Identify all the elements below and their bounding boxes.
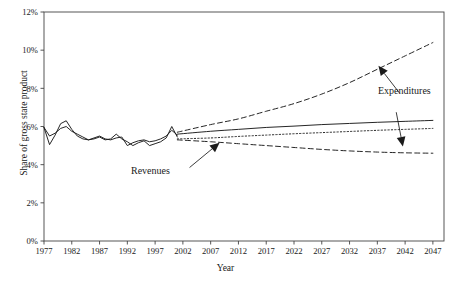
x-tick-label: 2002 — [174, 246, 191, 256]
x-tick-label: 2042 — [397, 246, 414, 256]
x-tick-label: 1982 — [63, 246, 80, 256]
x-tick-label: 1992 — [119, 246, 136, 256]
y-axis-title: Share of gross state product — [19, 53, 29, 193]
series-line — [177, 120, 433, 134]
x-tick-label: 2007 — [202, 246, 220, 256]
series-line — [44, 121, 177, 146]
x-tick-label: 2027 — [313, 246, 331, 256]
x-tick-label: 2037 — [369, 246, 387, 256]
x-tick-label: 2012 — [230, 246, 247, 256]
chart-plot-area: 0%2%4%6%8%10%12%197719821987199219972002… — [0, 0, 451, 284]
x-tick-label: 1977 — [35, 246, 53, 256]
annotation-arrow — [396, 112, 405, 146]
x-tick-label: 1997 — [147, 246, 165, 256]
x-tick-label: 2032 — [341, 246, 358, 256]
x-tick-label: 2047 — [424, 246, 442, 256]
chart-figure: 0%2%4%6%8%10%12%197719821987199219972002… — [0, 0, 451, 284]
annotation-arrow — [190, 143, 220, 168]
series-line — [177, 128, 433, 138]
x-axis-title: Year — [0, 263, 451, 273]
x-tick-label: 2022 — [285, 246, 302, 256]
y-tick-label: 0% — [27, 236, 38, 246]
y-tick-label: 12% — [22, 7, 38, 17]
x-tick-label: 1987 — [91, 246, 109, 256]
y-tick-label: 2% — [27, 198, 38, 208]
annotation-revenues: Revenues — [131, 165, 170, 176]
x-tick-label: 2017 — [258, 246, 276, 256]
annotation-expenditures: Expenditures — [378, 85, 431, 96]
